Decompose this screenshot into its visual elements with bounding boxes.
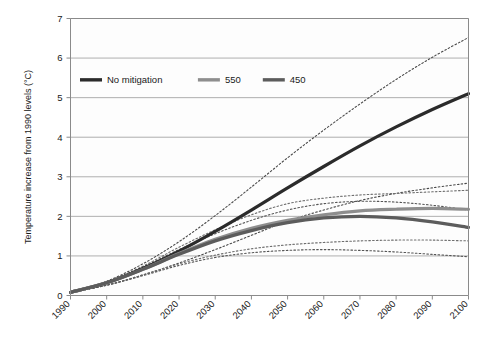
y-axis-title-text: Temperature increase from 1990 levels (°… [23, 70, 33, 244]
chart-canvas: 01234567 1990200020102020203020402050206… [0, 0, 492, 347]
y-tick-label-7: 7 [57, 13, 62, 24]
temperature-projection-chart: 01234567 1990200020102020203020402050206… [0, 0, 492, 347]
y-tick-label-4: 4 [57, 132, 62, 143]
y-axis-title: Temperature increase from 1990 levels (°… [23, 70, 33, 244]
y-tick-label-5: 5 [57, 92, 62, 103]
y-tick-label-2: 2 [57, 211, 62, 222]
y-tick-label-6: 6 [57, 52, 62, 63]
plot-area-background [71, 19, 469, 296]
y-tick-label-3: 3 [57, 171, 62, 182]
legend-label-no-mitigation: No mitigation [107, 74, 162, 85]
y-tick-label-1: 1 [57, 250, 62, 261]
legend-label-450: 450 [290, 74, 306, 85]
legend-label-550: 550 [225, 74, 241, 85]
